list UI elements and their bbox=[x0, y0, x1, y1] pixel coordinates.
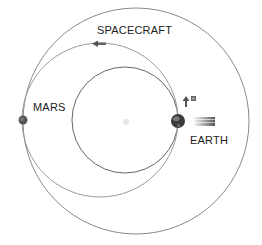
earth-planet-icon bbox=[171, 114, 185, 128]
earth-label: EARTH bbox=[190, 134, 228, 146]
transfer-orbit bbox=[22, 43, 178, 197]
velocity-arrow-icon bbox=[183, 96, 197, 107]
spacecraft-label: SPACECRAFT bbox=[97, 24, 172, 36]
sun-rays-icon bbox=[193, 117, 215, 126]
orbit-diagram bbox=[0, 0, 262, 245]
mars-label: MARS bbox=[33, 101, 66, 113]
hohmann-transfer-diagram: SPACECRAFT MARS EARTH bbox=[0, 0, 262, 245]
mars-planet-icon bbox=[19, 116, 28, 125]
mars-orbit bbox=[23, 8, 249, 234]
sun-icon bbox=[123, 119, 129, 125]
spacecraft-direction-arrow-icon bbox=[92, 41, 106, 48]
